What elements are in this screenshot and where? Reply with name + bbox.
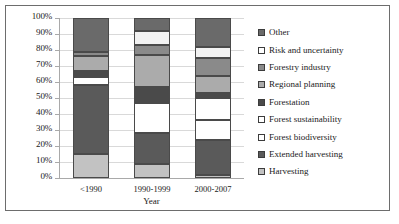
bar-segment: [134, 45, 170, 55]
legend-swatch-icon: [258, 116, 265, 123]
y-axis-tick-label: 40%: [36, 107, 52, 117]
legend-label: Forestry industry: [269, 63, 331, 72]
bar-segment: [134, 133, 170, 163]
y-axis-tick-label: 50%: [36, 91, 52, 101]
legend-swatch-icon: [258, 168, 265, 175]
y-axis-tick-label: 0%: [40, 171, 52, 181]
chart-frame: 0%10%20%30%40%50%60%70%80%90%100% <19901…: [5, 5, 390, 211]
plot-area: 0%10%20%30%40%50%60%70%80%90%100% <19901…: [59, 18, 244, 179]
legend-swatch-icon: [258, 81, 265, 88]
y-axis-tick-mark: [55, 146, 59, 147]
y-axis-tick-label: 70%: [36, 59, 52, 69]
stacked-bar: [73, 18, 109, 178]
bar-segment: [73, 56, 109, 70]
bar-segment: [195, 47, 231, 58]
legend-swatch-icon: [258, 151, 265, 158]
bar-segment: [73, 18, 109, 52]
y-axis-tick-mark: [55, 98, 59, 99]
bar-segment: [195, 140, 231, 175]
legend-swatch-icon: [258, 64, 265, 71]
bar-segment: [195, 93, 231, 98]
legend-item[interactable]: Forestry industry: [258, 59, 388, 76]
bar-segment: [134, 164, 170, 178]
legend-label: Risk and uncertainty: [269, 46, 343, 55]
y-axis-tick-mark: [55, 66, 59, 67]
bar-segment: [134, 55, 170, 87]
y-axis-tick-mark: [55, 130, 59, 131]
legend-item[interactable]: Forest biodiversity: [258, 128, 388, 145]
bar-segment: [195, 58, 231, 76]
legend-item[interactable]: Forestation: [258, 94, 388, 111]
legend-swatch-icon: [258, 47, 265, 54]
legend-label: Other: [269, 28, 290, 37]
stacked-bar: [134, 18, 170, 178]
legend-swatch-icon: [258, 134, 265, 141]
legend-swatch-icon: [258, 99, 265, 106]
y-axis-tick-label: 80%: [36, 43, 52, 53]
x-axis-category-label: 2000-2007: [168, 184, 258, 194]
chart-legend: OtherRisk and uncertaintyForestry indust…: [258, 24, 388, 181]
legend-swatch-icon: [258, 29, 265, 36]
y-axis-tick-mark: [55, 114, 59, 115]
legend-item[interactable]: Extended harvesting: [258, 146, 388, 163]
bar-segment: [73, 77, 109, 85]
y-axis-tick-label: 100%: [32, 11, 52, 21]
bar-segment: [73, 154, 109, 178]
legend-item[interactable]: Forest sustainability: [258, 111, 388, 128]
legend-item[interactable]: Other: [258, 24, 388, 41]
y-axis-tick-mark: [55, 82, 59, 83]
y-axis-tick-mark: [55, 50, 59, 51]
y-axis-tick-mark: [55, 162, 59, 163]
legend-label: Extended harvesting: [269, 150, 343, 159]
bar-segment: [195, 18, 231, 47]
bar-segment: [195, 120, 231, 139]
y-axis-tick-label: 60%: [36, 75, 52, 85]
y-axis-tick-mark: [55, 18, 59, 19]
y-axis-tick-label: 20%: [36, 139, 52, 149]
bar-segment: [195, 76, 231, 94]
legend-label: Forestation: [269, 98, 310, 107]
legend-label: Harvesting: [269, 167, 309, 176]
legend-label: Forest sustainability: [269, 115, 342, 124]
y-axis-tick-label: 90%: [36, 27, 52, 37]
bar-segment: [134, 87, 170, 101]
stacked-bar: [195, 18, 231, 178]
x-axis-line: [59, 178, 244, 179]
legend-label: Forest biodiversity: [269, 133, 337, 142]
y-axis-tick-label: 30%: [36, 123, 52, 133]
legend-item[interactable]: Risk and uncertainty: [258, 41, 388, 58]
y-axis-tick-label: 10%: [36, 155, 52, 165]
legend-label: Regional planning: [269, 80, 335, 89]
bar-segment: [195, 98, 231, 120]
bar-segment: [134, 31, 170, 45]
y-axis-tick-mark: [55, 178, 59, 179]
bar-segment: [73, 52, 109, 57]
bar-segment: [73, 71, 109, 77]
y-axis-tick-mark: [55, 34, 59, 35]
legend-item[interactable]: Harvesting: [258, 163, 388, 180]
bar-segment: [134, 18, 170, 31]
x-axis-title: Year: [59, 196, 244, 206]
bar-segment: [134, 103, 170, 133]
legend-item[interactable]: Regional planning: [258, 76, 388, 93]
bar-segment: [195, 175, 231, 178]
bar-segment: [73, 85, 109, 154]
